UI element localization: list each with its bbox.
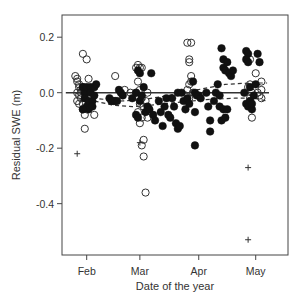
filled-circle-point <box>136 69 144 77</box>
filled-circle-point <box>134 114 142 122</box>
plot-frame <box>62 15 288 255</box>
filled-circle-point <box>151 117 159 125</box>
filled-circle-point <box>189 78 197 86</box>
filled-circle-point <box>244 58 252 66</box>
y-axis-ticks: 0.20.0-0.2-0.4 <box>36 31 62 209</box>
filled-circle-point <box>254 50 262 58</box>
open-circle-point <box>134 78 141 85</box>
filled-circle-point <box>204 103 212 111</box>
open-circle-point <box>140 153 147 160</box>
open-circle-point <box>248 114 255 121</box>
filled-circle-point <box>140 83 148 91</box>
filled-circle-point <box>185 100 193 108</box>
open-circle-point <box>91 111 98 118</box>
open-circle-point <box>142 189 149 196</box>
y-axis-label: Residual SWE (m) <box>10 90 22 180</box>
filled-circle-point <box>191 142 199 150</box>
filled-circle-point <box>155 97 163 105</box>
filled-circle-point <box>170 103 178 111</box>
filled-circle-point <box>197 94 205 102</box>
scatter-chart: 0.20.0-0.2-0.4 FebMarAprMay Residual SWE… <box>0 0 304 306</box>
x-tick-label: May <box>246 265 267 277</box>
plus-point <box>245 165 251 171</box>
plus-point <box>245 237 251 243</box>
filled-circle-point <box>113 97 121 105</box>
y-tick-label: -0.2 <box>36 142 54 154</box>
open-circle-point <box>81 125 88 132</box>
filled-circle-point <box>206 128 214 136</box>
filled-circle-point <box>223 58 231 66</box>
filled-circle-point <box>241 89 249 97</box>
y-tick-label: 0.2 <box>39 31 54 43</box>
filled-circle-point <box>89 103 97 111</box>
x-tick-label: Feb <box>78 265 96 277</box>
open-circle-point <box>112 72 119 79</box>
filled-circle-point <box>92 81 100 89</box>
x-tick-label: Mar <box>131 265 150 277</box>
y-tick-label: 0.0 <box>39 87 54 99</box>
x-axis-label: Date of the year <box>136 280 215 292</box>
open-circle-point <box>85 75 92 82</box>
filled-circle-point <box>178 89 186 97</box>
open-circle-point <box>83 56 90 63</box>
filled-circle-point <box>250 92 258 100</box>
filled-circle-point <box>90 92 98 100</box>
filled-circle-point <box>218 44 226 52</box>
filled-circle-point <box>119 92 127 100</box>
filled-circle-point <box>191 108 199 116</box>
x-tick-label: Apr <box>191 265 208 277</box>
plus-point <box>74 151 80 157</box>
filled-circle-point <box>166 114 174 122</box>
filled-circle-point <box>216 92 224 100</box>
filled-circle-point <box>256 58 264 66</box>
filled-circle-point <box>147 69 155 77</box>
open-circle-point <box>252 70 259 77</box>
filled-circle-point <box>161 103 169 111</box>
filled-circle-point <box>229 67 237 75</box>
filled-circle-point <box>210 97 218 105</box>
data-points <box>72 39 265 243</box>
filled-circle-point <box>248 100 256 108</box>
filled-circle-point <box>138 92 146 100</box>
filled-circle-point <box>252 81 260 89</box>
filled-circle-point <box>203 89 211 97</box>
y-tick-label: -0.4 <box>36 198 54 210</box>
filled-circle-point <box>168 94 176 102</box>
filled-circle-point <box>176 122 184 130</box>
filled-circle-point <box>159 122 167 130</box>
x-axis-ticks: FebMarAprMay <box>78 255 267 277</box>
filled-circle-point <box>79 106 87 114</box>
filled-circle-point <box>214 81 222 89</box>
filled-circle-point <box>223 106 231 114</box>
filled-circle-point <box>222 114 230 122</box>
filled-circle-point <box>206 117 214 125</box>
